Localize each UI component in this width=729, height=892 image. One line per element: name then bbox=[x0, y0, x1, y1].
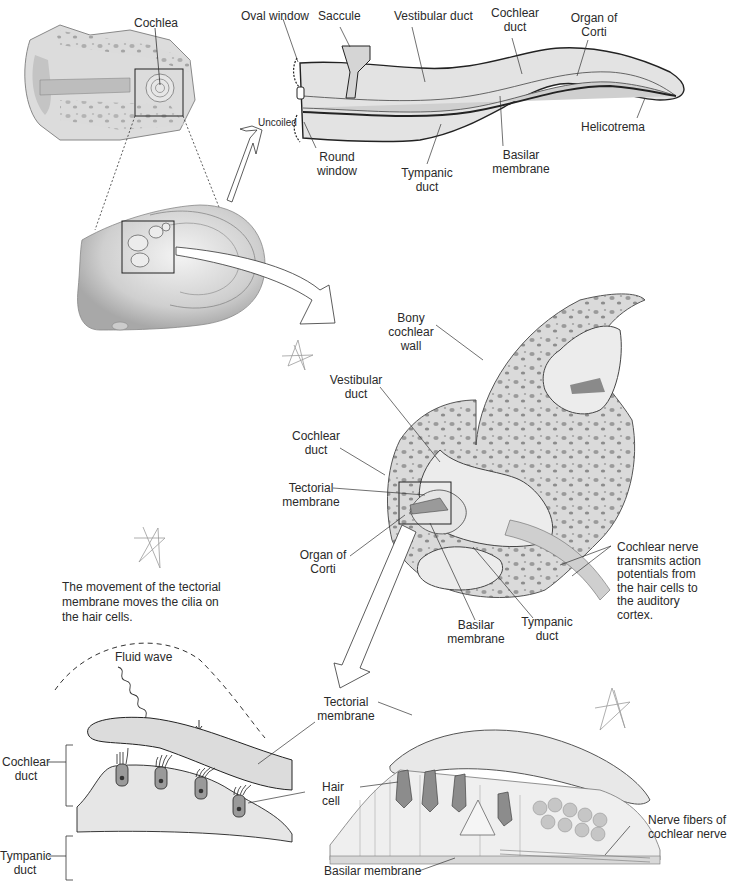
label-line: transmits action bbox=[617, 555, 701, 569]
label-uncoiled: Uncoiled bbox=[258, 116, 297, 130]
label-line: Nerve fibers of bbox=[648, 813, 727, 827]
label-line: the auditory bbox=[617, 595, 701, 609]
caption-line: membrane moves the cilia on bbox=[62, 595, 221, 610]
label-line: Tympanic bbox=[0, 849, 50, 863]
label-line: cochlear bbox=[384, 325, 438, 339]
label-line: Round bbox=[312, 150, 362, 164]
label-tympanic-duct-top: Tympanic duct bbox=[399, 166, 455, 194]
label-oval-window: Oval window bbox=[241, 9, 309, 23]
label-line: Bony bbox=[384, 311, 438, 325]
label-line: duct bbox=[2, 769, 50, 783]
label-line: Cochlear bbox=[2, 755, 50, 769]
label-cochlear-duct: Cochlear duct bbox=[489, 6, 541, 34]
label-tympanic-duct-schematic: Tympanic duct bbox=[0, 849, 50, 877]
label-line: Organ of bbox=[566, 11, 622, 25]
label-organ-of-corti-section: Organ of Corti bbox=[297, 548, 349, 576]
label-line: cortex. bbox=[617, 609, 701, 623]
label-line: membrane bbox=[445, 632, 507, 646]
organ-of-corti-illustration bbox=[330, 702, 660, 872]
label-line: Basilar bbox=[445, 618, 507, 632]
label-helicotrema: Helicotrema bbox=[581, 120, 645, 134]
uncoiled-arrow bbox=[227, 126, 262, 202]
label-line: cochlear nerve bbox=[648, 827, 727, 841]
label-line: Tectorial bbox=[281, 481, 341, 495]
label-line: Cochlear bbox=[489, 6, 541, 20]
label-line: wall bbox=[384, 339, 438, 353]
label-basilar-membrane-top: Basilar membrane bbox=[490, 148, 552, 176]
hair-cell-schematic bbox=[48, 643, 315, 880]
cochlea-cross-section bbox=[333, 294, 645, 620]
cochlea-spiral bbox=[146, 74, 174, 102]
label-saccule: Saccule bbox=[318, 9, 361, 23]
label-line: Tectorial bbox=[316, 695, 376, 709]
label-tectorial-membrane-section: Tectorial membrane bbox=[281, 481, 341, 509]
label-line: duct bbox=[290, 443, 342, 457]
label-line: Cochlear nerve bbox=[617, 541, 701, 555]
label-line: Hair bbox=[322, 780, 344, 794]
label-line: Basilar bbox=[490, 148, 552, 162]
uncoiled-cochlea bbox=[283, 19, 684, 164]
label-cochlear-duct-section: Cochlear duct bbox=[290, 429, 342, 457]
label-line: duct bbox=[399, 180, 455, 194]
label-line: duct bbox=[489, 20, 541, 34]
label-bony-cochlear-wall: Bony cochlear wall bbox=[384, 311, 438, 353]
label-line: Corti bbox=[297, 562, 349, 576]
label-basilar-membrane-detail: Basilar membrane bbox=[324, 864, 421, 878]
label-fluid-wave: Fluid wave bbox=[115, 650, 172, 664]
label-line: cell bbox=[322, 794, 344, 808]
label-organ-of-corti-top: Organ of Corti bbox=[566, 11, 622, 39]
caption-tectorial-movement: The movement of the tectorial membrane m… bbox=[62, 580, 221, 625]
label-hair-cell: Hair cell bbox=[322, 780, 344, 808]
caption-line: the hair cells. bbox=[62, 610, 221, 625]
label-line: duct bbox=[0, 863, 50, 877]
label-nerve-fibers: Nerve fibers of cochlear nerve bbox=[648, 813, 727, 841]
label-line: membrane bbox=[490, 162, 552, 176]
caption-line: The movement of the tectorial bbox=[62, 580, 221, 595]
label-round-window: Round window bbox=[312, 150, 362, 178]
label-line: potentials from bbox=[617, 568, 701, 582]
label-line: Tympanic bbox=[399, 166, 455, 180]
label-vestibular-duct: Vestibular duct bbox=[394, 9, 473, 23]
label-cochlea: Cochlea bbox=[134, 16, 178, 30]
label-line: duct bbox=[518, 629, 576, 643]
label-line: window bbox=[312, 164, 362, 178]
label-line: membrane bbox=[316, 709, 376, 723]
label-cochlear-nerve: Cochlear nerve transmits action potentia… bbox=[617, 541, 701, 622]
label-tympanic-duct-section: Tympanic duct bbox=[518, 615, 576, 643]
label-tectorial-membrane-detail: Tectorial membrane bbox=[316, 695, 376, 723]
label-line: Tympanic bbox=[518, 615, 576, 629]
label-basilar-membrane-section: Basilar membrane bbox=[445, 618, 507, 646]
label-line: Cochlear bbox=[290, 429, 342, 443]
label-line: duct bbox=[327, 387, 385, 401]
label-vestibular-duct-section: Vestibular duct bbox=[327, 373, 385, 401]
label-line: the hair cells to bbox=[617, 582, 701, 596]
label-cochlear-duct-schematic: Cochlear duct bbox=[2, 755, 50, 783]
label-line: Corti bbox=[566, 25, 622, 39]
label-line: membrane bbox=[281, 495, 341, 509]
label-line: Organ of bbox=[297, 548, 349, 562]
label-line: Vestibular bbox=[327, 373, 385, 387]
